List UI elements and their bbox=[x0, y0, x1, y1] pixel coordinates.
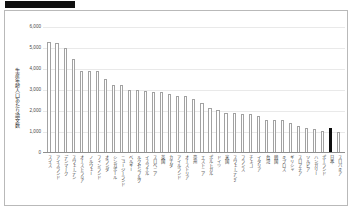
y-tick-label: 1,000 bbox=[19, 130, 41, 135]
x-label-slot: ベルギー bbox=[125, 155, 133, 203]
bar-slot bbox=[335, 27, 343, 152]
bar bbox=[88, 71, 91, 152]
x-label-slot: イタリア bbox=[254, 155, 262, 203]
bar-slot bbox=[117, 27, 125, 152]
bar-slot bbox=[45, 27, 53, 152]
bar-slot bbox=[311, 27, 319, 152]
bar-slot bbox=[254, 27, 262, 152]
x-tick-label: スロアチア bbox=[296, 155, 301, 175]
x-tick-label: オーストリア bbox=[184, 155, 189, 178]
x-tick-label: イタリア bbox=[256, 155, 261, 171]
bar-slot bbox=[134, 27, 142, 152]
bar bbox=[80, 71, 83, 152]
y-tick-label: 6,000 bbox=[19, 25, 41, 30]
x-label-slot: ニュージーランド bbox=[117, 155, 125, 203]
bar-slot bbox=[69, 27, 77, 152]
bar-slot bbox=[53, 27, 61, 152]
bar bbox=[289, 123, 292, 152]
x-tick-label: フランス bbox=[240, 155, 245, 171]
bar-slot bbox=[270, 27, 278, 152]
x-label-slot: ポルトガル bbox=[206, 155, 214, 203]
bar bbox=[257, 116, 260, 152]
x-tick-label: ルクセンブルク bbox=[135, 155, 140, 182]
bar bbox=[144, 91, 147, 152]
bar bbox=[160, 92, 163, 152]
bar bbox=[192, 99, 195, 152]
bar-highlighted bbox=[329, 128, 332, 152]
x-tick-label: ポルトガル bbox=[208, 155, 213, 175]
x-label-slot: デンマーク bbox=[61, 155, 69, 203]
x-label-slot: ノルウェー bbox=[85, 155, 93, 203]
x-label-slot: スウェーデン2 bbox=[230, 155, 238, 203]
x-label-slot: ルクセンブルク bbox=[134, 155, 142, 203]
x-tick-label: 韓国 bbox=[272, 155, 277, 163]
x-label-slot: ドイツ bbox=[214, 155, 222, 203]
x-tick-label: スウェーデン2 bbox=[232, 155, 237, 183]
bar-slot bbox=[222, 27, 230, 152]
x-tick-label: 米国 bbox=[224, 155, 229, 163]
x-label-slot: 米国 bbox=[222, 155, 230, 203]
bar-slot bbox=[303, 27, 311, 152]
bar-slot bbox=[182, 27, 190, 152]
bar bbox=[136, 90, 139, 152]
x-tick-label: スロバキア bbox=[336, 155, 341, 175]
bar bbox=[55, 43, 58, 152]
bar bbox=[281, 120, 284, 152]
x-label-slot: スイス bbox=[45, 155, 53, 203]
x-tick-label: 英国 bbox=[159, 155, 164, 163]
bar-slot bbox=[238, 27, 246, 152]
x-label-slot: アイルランド bbox=[174, 155, 182, 203]
x-tick-label: イスラエル bbox=[143, 155, 148, 175]
x-label-slot: オーストラリア bbox=[77, 155, 85, 203]
bar-slot bbox=[198, 27, 206, 152]
x-tick-label: ポーランド bbox=[320, 155, 325, 175]
bar bbox=[249, 114, 252, 152]
bar-slot bbox=[93, 27, 101, 152]
x-label-slot: スロアチア bbox=[294, 155, 302, 203]
bar-slot bbox=[85, 27, 93, 152]
bar bbox=[152, 92, 155, 152]
bar bbox=[224, 113, 227, 152]
bar bbox=[337, 132, 340, 152]
x-label-slot: フランス bbox=[238, 155, 246, 203]
x-label-slot: スロバキア bbox=[335, 155, 343, 203]
x-tick-label: スイス bbox=[47, 155, 52, 167]
bar-slot bbox=[278, 27, 286, 152]
x-tick-label: 台湾 bbox=[264, 155, 269, 163]
x-tick-label: オーストラリア bbox=[79, 155, 84, 182]
bar bbox=[265, 120, 268, 152]
bar bbox=[120, 85, 123, 152]
y-axis-tick-labels: 6,0005,0004,0003,0002,0001,0000 bbox=[17, 11, 41, 207]
bar-slot bbox=[214, 27, 222, 152]
x-label-slot: 日本 bbox=[327, 155, 335, 203]
bar bbox=[112, 85, 115, 152]
x-label-slot: 台湾 bbox=[262, 155, 270, 203]
x-tick-label: デンマーク bbox=[63, 155, 68, 175]
screenshot-root: 生産年齢人口あたり論文数 6,0005,0004,0003,0002,0001,… bbox=[0, 0, 352, 215]
x-tick-label: キプロス bbox=[280, 155, 285, 171]
bar bbox=[64, 48, 67, 152]
x-tick-label: アイスランド bbox=[55, 155, 60, 178]
x-tick-label: オランダ bbox=[103, 155, 108, 171]
x-tick-label: ニュージーランド bbox=[119, 155, 124, 186]
x-label-slot: ポーランド bbox=[319, 155, 327, 203]
bar-slot bbox=[174, 27, 182, 152]
x-tick-label: 豪州 bbox=[192, 155, 197, 163]
bar bbox=[208, 108, 211, 152]
bar-slot bbox=[206, 27, 214, 152]
y-tick-label: 3,000 bbox=[19, 88, 41, 93]
x-label-slot: シンガポール bbox=[109, 155, 117, 203]
bar-slot bbox=[230, 27, 238, 152]
x-tick-label: ベルギー bbox=[127, 155, 132, 171]
x-tick-label: エストニア bbox=[200, 155, 205, 175]
x-tick-label: ソルビア bbox=[304, 155, 309, 171]
bar-slot bbox=[101, 27, 109, 152]
x-tick-label: ノルウェー bbox=[87, 155, 92, 175]
x-tick-label: アイルランド bbox=[176, 155, 181, 178]
x-label-slot: アイスランド bbox=[53, 155, 61, 203]
y-tick-label: 0 bbox=[19, 151, 41, 156]
x-label-slot: スウェーデン bbox=[69, 155, 77, 203]
y-tick-label: 2,000 bbox=[19, 109, 41, 114]
bar-slot bbox=[319, 27, 327, 152]
bar bbox=[47, 42, 50, 152]
